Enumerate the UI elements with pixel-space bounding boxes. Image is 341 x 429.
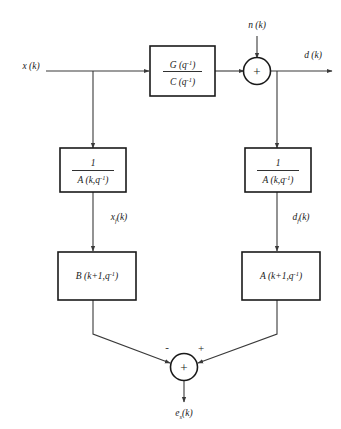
wire-a-to-bottom-sum	[198, 300, 277, 363]
plant-transfer-function-block[interactable]: G (q-1) C (q-1)	[150, 46, 215, 96]
top-summing-junction-plus-glyph: +	[253, 64, 260, 79]
signal-label-error-es: es(k)	[175, 408, 192, 420]
signal-label-n-noise: n (k)	[248, 20, 266, 31]
plant-denominator-text: C (q-1)	[170, 76, 195, 88]
bottom-summing-junction-minus-sign: -	[165, 341, 169, 353]
wire-b-to-bottom-sum	[93, 300, 170, 363]
bottom-summing-junction[interactable]: + - +	[165, 341, 204, 381]
top-summing-junction[interactable]: +	[244, 58, 271, 85]
inverse-a-right-outline	[245, 148, 311, 192]
inverse-a-left-outline	[60, 148, 126, 192]
signal-label-d-output: d (k)	[304, 50, 322, 61]
block-diagram-svg: G (q-1) C (q-1) + 1 A (k,q-1)	[0, 0, 341, 429]
plant-block-outline	[150, 46, 215, 96]
inverse-a-left-block[interactable]: 1 A (k,q-1)	[60, 148, 126, 192]
signal-label-x-input: x (k)	[21, 61, 39, 72]
a-polynomial-block[interactable]: A (k+1,q-1)	[242, 252, 320, 300]
signal-label-xf: xf(k)	[110, 212, 128, 224]
signal-label-df: df(k)	[292, 212, 309, 224]
bottom-summing-junction-plus-sign: +	[198, 342, 204, 354]
inverse-a-left-numerator: 1	[91, 158, 96, 168]
inverse-a-right-numerator: 1	[276, 158, 281, 168]
inverse-a-right-block[interactable]: 1 A (k,q-1)	[245, 148, 311, 192]
plant-numerator-text: G (q-1)	[170, 59, 196, 71]
b-polynomial-block[interactable]: B (k+1,q-1)	[58, 252, 136, 300]
block-diagram-canvas: G (q-1) C (q-1) + 1 A (k,q-1)	[0, 0, 341, 429]
bottom-summing-junction-plus-glyph: +	[180, 360, 187, 375]
